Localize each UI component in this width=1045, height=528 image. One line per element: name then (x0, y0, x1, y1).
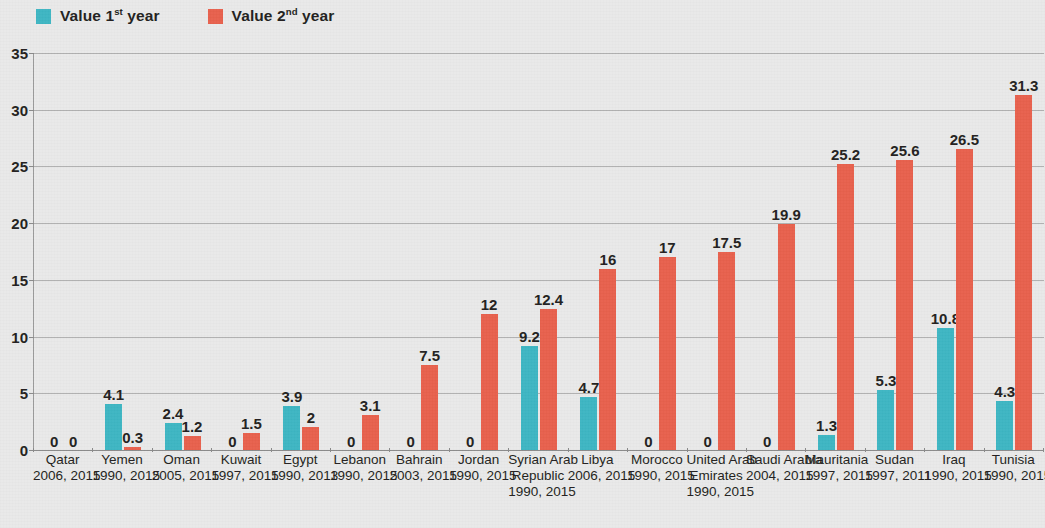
bar-value-2nd-year[interactable]: 19.9 (778, 224, 795, 450)
bar-data-label: 0.3 (122, 430, 143, 445)
bar-data-label: 1.2 (182, 419, 203, 434)
bar-value-2nd-year[interactable]: 0.3 (124, 447, 141, 450)
bar-group[interactable]: 017 (640, 53, 676, 450)
x-axis-category-labels: Qatar2006, 2015Yemen1990, 2015Oman2005, … (33, 452, 1043, 528)
y-axis-tick-label: 20 (2, 215, 28, 232)
x-axis-category-label: Tunisia1990, 2015 (984, 452, 1043, 484)
bar-group[interactable]: 4.10.3 (105, 53, 141, 450)
bar-value-2nd-year[interactable]: 26.5 (956, 149, 973, 450)
bar-group[interactable]: 07.5 (402, 53, 438, 450)
bar-value-2nd-year[interactable]: 25.2 (837, 164, 854, 450)
bar-value-2nd-year[interactable]: 17.5 (718, 252, 735, 451)
category-years: 2003, 2015 (389, 468, 448, 484)
x-axis-category-label: Lebanon1990, 2015 (330, 452, 389, 484)
bar-value-1st-year[interactable]: 5.3 (877, 390, 894, 450)
legend-text-prefix: Value 1 (60, 7, 114, 24)
bar-value-2nd-year[interactable]: 31.3 (1015, 95, 1032, 450)
bar-value-1st-year[interactable]: 4.3 (996, 401, 1013, 450)
bar-value-2nd-year[interactable]: 12 (481, 314, 498, 450)
chart-legend: Value 1st year Value 2nd year (36, 3, 334, 29)
x-axis-category-label: United ArabEmirates1990, 2015 (687, 452, 746, 500)
category-name: Kuwait (211, 452, 270, 468)
bar-value-2nd-year[interactable]: 16 (599, 269, 616, 450)
bar-group[interactable]: 00 (46, 53, 82, 450)
bar-value-2nd-year[interactable]: 1.5 (243, 433, 260, 450)
bar-data-label: 9.2 (519, 329, 540, 344)
x-axis-tick-mark (1043, 448, 1044, 452)
bar-value-2nd-year[interactable]: 3.1 (362, 415, 379, 450)
y-axis-tick-mark (29, 223, 34, 224)
category-years: 2006, 2015 (568, 468, 627, 484)
bar-group[interactable]: 2.41.2 (165, 53, 201, 450)
category-years: 2004, 2015 (746, 468, 805, 484)
bar-group[interactable]: 01.5 (224, 53, 260, 450)
bar-data-label: 17 (659, 240, 676, 255)
x-axis-category-label: Jordan1990, 2015 (449, 452, 508, 484)
bar-group[interactable]: 017.5 (699, 53, 735, 450)
bar-data-label: 25.6 (890, 143, 919, 158)
bar-data-label: 0 (704, 434, 712, 449)
category-name: Egypt (271, 452, 330, 468)
y-axis-tick-label: 10 (2, 328, 28, 345)
square-swatch-icon (36, 9, 51, 24)
bar-group[interactable]: 019.9 (759, 53, 795, 450)
bar-data-label: 2.4 (163, 406, 184, 421)
bar-data-label: 7.5 (419, 348, 440, 363)
legend-label-value-1st-year: Value 1st year (60, 7, 160, 25)
x-axis-category-label: Syrian ArabRepublic1990, 2015 (508, 452, 567, 500)
category-name: Oman (152, 452, 211, 468)
bar-value-2nd-year[interactable]: 12.4 (540, 309, 557, 450)
legend-label-value-2nd-year: Value 2nd year (232, 7, 335, 25)
bar-value-1st-year[interactable]: 2.4 (165, 423, 182, 450)
bar-data-label: 0 (228, 434, 236, 449)
bar-value-1st-year[interactable]: 3.9 (283, 406, 300, 450)
square-swatch-icon (208, 9, 223, 24)
legend-text-suffix: year (302, 7, 334, 24)
category-name: Syrian Arab (508, 452, 567, 468)
bar-value-1st-year[interactable]: 4.1 (105, 404, 122, 451)
bar-data-label: 4.1 (103, 387, 124, 402)
bar-group[interactable]: 9.212.4 (521, 53, 557, 450)
bar-group[interactable]: 4.716 (580, 53, 616, 450)
bar-group[interactable]: 10.826.5 (937, 53, 973, 450)
bar-data-label: 1.3 (816, 418, 837, 433)
category-name: Yemen (92, 452, 151, 468)
bar-value-1st-year[interactable]: 1.3 (818, 435, 835, 450)
category-name: Iraq (924, 452, 983, 468)
category-years: 1997, 2015 (805, 468, 864, 484)
category-name: Lebanon (330, 452, 389, 468)
bar-group[interactable]: 012 (462, 53, 498, 450)
bar-group[interactable]: 5.325.6 (877, 53, 913, 450)
category-years: 1990, 2015 (627, 468, 686, 484)
bar-group[interactable]: 4.331.3 (996, 53, 1032, 450)
category-years: 1990, 2015 (330, 468, 389, 484)
x-axis-category-label: Yemen1990, 2015 (92, 452, 151, 484)
y-axis-tick-labels: 05101520253035 (0, 53, 28, 450)
bar-value-2nd-year[interactable]: 7.5 (421, 365, 438, 450)
bar-data-label: 16 (600, 252, 617, 267)
bar-value-1st-year[interactable]: 4.7 (580, 397, 597, 450)
bar-value-2nd-year[interactable]: 2 (302, 427, 319, 450)
y-axis-tick-label: 35 (2, 45, 28, 62)
category-years: 2005, 2015 (152, 468, 211, 484)
bar-data-label: 26.5 (950, 132, 979, 147)
bar-value-2nd-year[interactable]: 25.6 (896, 160, 913, 450)
bar-data-label: 0 (763, 434, 771, 449)
bar-value-2nd-year[interactable]: 17 (659, 257, 676, 450)
bar-data-label: 31.3 (1009, 78, 1038, 93)
bar-value-1st-year[interactable]: 10.8 (937, 328, 954, 451)
y-axis-tick-mark (29, 166, 34, 167)
bar-value-1st-year[interactable]: 9.2 (521, 346, 538, 450)
y-axis-tick-label: 30 (2, 101, 28, 118)
x-axis-category-label: Mauritania1997, 2015 (805, 452, 864, 484)
bar-data-label: 17.5 (712, 235, 741, 250)
bar-group[interactable]: 03.1 (343, 53, 379, 450)
bar-group[interactable]: 1.325.2 (818, 53, 854, 450)
y-axis-tick-mark (29, 280, 34, 281)
category-name: Republic (508, 468, 567, 484)
category-years: 1990, 2015 (924, 468, 983, 484)
plot-area: 004.10.32.41.201.53.9203.107.50129.212.4… (33, 53, 1043, 450)
bar-value-2nd-year[interactable]: 1.2 (184, 436, 201, 450)
bar-group[interactable]: 3.92 (283, 53, 319, 450)
legend-item-value-1st-year: Value 1st year (36, 7, 160, 25)
